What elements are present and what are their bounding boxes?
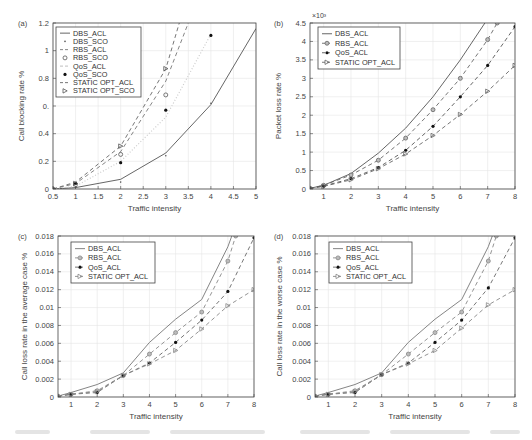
x-tick-label: 8 (513, 192, 517, 201)
y-axis-label: Call loss rate in the average case % (20, 253, 29, 381)
caption-fragment (170, 430, 265, 434)
series-rbs-acl-marker (433, 331, 437, 335)
y-tick-label: 0.014 (35, 267, 54, 276)
y-tick-label: 0.016 (35, 249, 54, 258)
x-tick-label: 4.5 (228, 192, 238, 201)
caption-fragment (390, 430, 470, 434)
x-tick-label: 1.5 (93, 192, 103, 201)
legend-entry-label: QoS_ACL (88, 263, 121, 272)
x-tick-label: 4 (147, 400, 151, 409)
y-tick-label: 0 (45, 185, 49, 194)
panel-label: (d) (274, 232, 284, 241)
y-tick-label: 0.004 (292, 357, 311, 366)
series-qos-acl-marker (487, 286, 490, 289)
x-tick-label: 4 (406, 400, 410, 409)
x-tick-label: 6 (460, 400, 464, 409)
y-tick-label: 0.01 (39, 303, 54, 312)
legend-entry-label: STATIC OPT_SCO (73, 86, 135, 95)
x-tick-label: 4 (404, 192, 408, 201)
y-tick-label: 0 (302, 185, 306, 194)
series-qos-acl-marker (226, 290, 229, 293)
series-qos-acl-marker (460, 318, 463, 321)
y-tick-label: 0.5 (296, 166, 306, 175)
y-tick-label: 0.8 (39, 74, 49, 83)
y-tick-label: 4.5 (296, 19, 306, 28)
x-tick-label: 0.5 (48, 192, 58, 201)
x-tick-label: 5 (433, 400, 437, 409)
legend: DBS_ACLRBS_ACLQoS_ACLSTATIC OPT_ACL (318, 27, 400, 69)
legend-entry-label: DBS_ACL (335, 29, 368, 38)
y-tick-label: 3 (302, 74, 306, 83)
series-rbs-acl-marker (349, 173, 353, 177)
y-tick-label: 0 (307, 393, 311, 402)
series-qos-sco-marker (119, 161, 122, 164)
x-axis-label: Traffic intensity (129, 412, 182, 421)
series-qos-acl-marker (459, 95, 462, 98)
series-qos-acl-marker (174, 341, 177, 344)
x-tick-label: 7 (226, 400, 230, 409)
series-qos-acl-marker (431, 125, 434, 128)
series-rbs-acl-marker (226, 259, 230, 263)
x-tick-label: 3 (380, 400, 384, 409)
caption-fragment (15, 430, 50, 434)
y-exponent-label: ×10³ (312, 12, 327, 19)
legend-marker-swatch (336, 266, 339, 269)
y-tick-label: 0 (50, 393, 54, 402)
legend-marker-swatch (325, 51, 328, 54)
series-rbs-acl-marker (431, 108, 435, 112)
y-tick-label: 0.006 (292, 339, 311, 348)
y-tick-label: 0.016 (292, 249, 311, 258)
x-tick-label: 1 (69, 400, 73, 409)
chart-panel-b: 1234567800.511.522.533.544.5(b)×10³Traff… (274, 12, 517, 213)
series-rbs-acl-marker (147, 352, 151, 356)
x-tick-label: 3.5 (183, 192, 193, 201)
series-qos-sco-marker (164, 109, 167, 112)
chart-panel-c: 1234567800.0020.0040.0060.0080.010.0120.… (18, 232, 256, 422)
y-tick-label: 1.5 (296, 129, 306, 138)
panel-label: (c) (18, 232, 27, 241)
x-tick-label: 8 (252, 400, 256, 409)
y-tick-label: 0.004 (35, 357, 54, 366)
y-tick-label: 0.014 (292, 267, 311, 276)
legend-entry-label: QoS_ACL (335, 48, 368, 57)
y-tick-label: 0. (43, 102, 49, 111)
chart-panel-d: 1234567800.0020.0040.0060.0080.010.0120.… (274, 232, 517, 422)
y-tick-label: 0.01 (296, 303, 311, 312)
x-tick-label: 2 (353, 400, 357, 409)
x-tick-label: 5 (254, 192, 258, 201)
series-rbs-acl-marker (406, 352, 410, 356)
series-qos-acl-marker (404, 149, 407, 152)
series-qos-sco-marker (209, 34, 212, 37)
x-tick-label: 5 (174, 400, 178, 409)
series-rbs-acl-marker (486, 38, 490, 42)
x-axis-label: Traffic intensity (388, 412, 441, 421)
legend-entry-label: RBS_ACL (346, 253, 379, 262)
legend-marker-swatch (325, 41, 329, 45)
y-tick-label: 4 (302, 37, 306, 46)
series-rbs-acl-marker (458, 76, 462, 80)
series-rbs-acl-marker (200, 310, 204, 314)
series-rbs-acl-marker (174, 331, 178, 335)
x-tick-label: 4 (209, 192, 213, 201)
x-tick-label: 7 (486, 400, 490, 409)
y-tick-label: 0.008 (35, 321, 54, 330)
legend-entry-label: RBS_ACL (335, 39, 368, 48)
caption-fragment (300, 430, 370, 434)
y-tick-label: 2 (302, 111, 306, 120)
y-tick-label: 0.012 (292, 285, 311, 294)
x-tick-label: 1 (326, 400, 330, 409)
x-tick-label: 7 (486, 192, 490, 201)
x-tick-label: 1 (73, 192, 77, 201)
x-tick-label: 3 (164, 192, 168, 201)
series-rbs-acl-marker (376, 158, 380, 162)
x-tick-label: 2 (95, 400, 99, 409)
legend-entry-label: STATIC OPT_ACL (88, 272, 148, 281)
y-axis-label: Call blocking rate % (17, 71, 26, 142)
legend-marker-swatch (78, 256, 82, 260)
series-dbs-sco-marker (210, 102, 212, 104)
series-rbs-acl-marker (404, 136, 408, 140)
y-tick-label: 0.018 (292, 232, 311, 241)
legend-entry-label: DBS_ACL (346, 244, 379, 253)
x-axis-label: Traffic intensity (386, 204, 439, 213)
x-axis-label: Traffic intensity (128, 204, 181, 213)
